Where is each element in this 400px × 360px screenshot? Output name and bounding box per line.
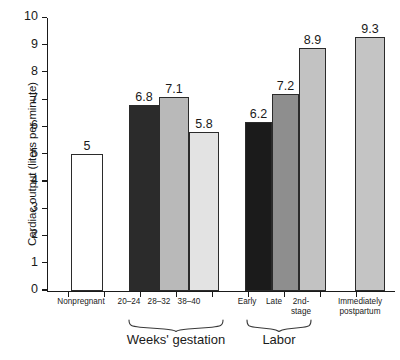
y-tick-label-2: 2 xyxy=(31,227,38,241)
group-label-weeks-gestation: Weeks' gestation xyxy=(116,332,236,347)
bar-value-labor-early: 6.2 xyxy=(250,107,267,121)
x-category-label-weeks-38-40: 38–40 xyxy=(169,297,209,307)
y-tick-label-6: 6 xyxy=(31,118,38,132)
bar-weeks-38-40: 5.8 xyxy=(189,132,219,290)
plot-area: 0 1 2 3 4 5 6 7 8 9 10 5 6.8 7.1 5.8 xyxy=(47,18,395,292)
bar-value-weeks-38-40: 5.8 xyxy=(195,117,212,131)
y-tick-label-9: 9 xyxy=(31,37,38,51)
bar-value-weeks-20-24: 6.8 xyxy=(135,90,152,104)
y-tick-label-4: 4 xyxy=(31,173,38,187)
bar-value-nonpregnant: 5 xyxy=(84,139,91,153)
y-tick-10: 10 xyxy=(42,17,47,18)
x-category-label-labor-2nd-stage: 2nd- stage xyxy=(285,297,317,316)
y-tick-2: 2 xyxy=(42,235,47,236)
y-tick-0: 0 xyxy=(42,289,47,290)
y-axis-line xyxy=(47,18,48,292)
bar-value-labor-2nd-stage: 8.9 xyxy=(304,33,321,47)
y-tick-7: 7 xyxy=(42,99,47,100)
bar-value-weeks-28-32: 7.1 xyxy=(165,82,182,96)
y-tick-8: 8 xyxy=(42,71,47,72)
x-tick-e xyxy=(212,292,213,297)
y-tick-label-1: 1 xyxy=(31,255,38,269)
bar-nonpregnant: 5 xyxy=(71,154,103,290)
bar-labor-early: 6.2 xyxy=(245,122,272,291)
y-tick-label-3: 3 xyxy=(31,200,38,214)
bar-value-labor-late: 7.2 xyxy=(277,79,294,93)
y-tick-1: 1 xyxy=(42,262,47,263)
y-tick-label-8: 8 xyxy=(31,64,38,78)
x-category-label-immediately-postpartum: Immediately postpartum xyxy=(327,297,393,316)
y-tick-4: 4 xyxy=(42,180,47,181)
group-label-labor: Labor xyxy=(249,332,309,347)
y-tick-3: 3 xyxy=(42,208,47,209)
y-tick-6: 6 xyxy=(42,126,47,127)
bar-weeks-20-24: 6.8 xyxy=(129,105,159,291)
cardiac-output-bar-chart: Cardiac output (liters per minute) 0 1 2… xyxy=(0,0,400,360)
bar-labor-late: 7.2 xyxy=(272,94,299,290)
bar-value-immediately-postpartum: 9.3 xyxy=(361,22,378,36)
bar-weeks-28-32: 7.1 xyxy=(159,97,189,291)
x-axis-line xyxy=(47,291,395,292)
y-tick-9: 9 xyxy=(42,44,47,45)
y-tick-label-7: 7 xyxy=(31,91,38,105)
y-tick-label-5: 5 xyxy=(31,146,38,160)
bar-labor-2nd-stage: 8.9 xyxy=(299,48,326,291)
x-tick-h xyxy=(320,292,321,297)
bar-immediately-postpartum: 9.3 xyxy=(355,37,385,291)
y-tick-label-0: 0 xyxy=(31,282,38,296)
y-tick-5: 5 xyxy=(42,153,47,154)
y-tick-label-10: 10 xyxy=(24,9,38,23)
